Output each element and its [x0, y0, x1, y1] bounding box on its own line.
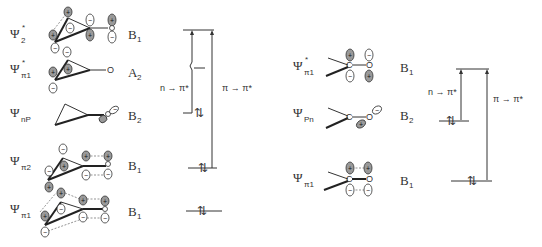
symmetry-b2: B2 — [400, 108, 414, 125]
arrowhead-icon — [210, 30, 214, 35]
orbital-drawing-psi-pi1: + − + − + − + − — [40, 188, 109, 237]
transition-label-n-pi-star: n → π* — [428, 87, 457, 97]
orbital-drawing-psi-pi2: − + − + + − + − — [45, 144, 112, 192]
svg-text:2: 2 — [137, 116, 142, 125]
svg-text:Ψ: Ψ — [10, 61, 20, 76]
svg-text:1: 1 — [409, 68, 414, 77]
symmetry-b1: B1 — [128, 27, 142, 44]
svg-text:−: − — [110, 34, 114, 41]
right-symmetry-labels: B1 B2 B1 — [400, 60, 414, 190]
svg-text:*: * — [305, 55, 308, 64]
svg-text:1: 1 — [137, 166, 142, 175]
svg-text:−: − — [366, 187, 370, 194]
svg-text:−: − — [348, 73, 352, 80]
svg-text:−: − — [43, 229, 47, 236]
svg-text:O: O — [107, 65, 114, 75]
svg-text:C: C — [346, 112, 353, 122]
svg-text:+: + — [348, 52, 352, 59]
label-psi-pi1: Ψ π1 — [10, 201, 32, 220]
svg-text:π1: π1 — [21, 211, 32, 220]
svg-text:−: − — [103, 215, 107, 222]
svg-text:B: B — [128, 27, 137, 42]
svg-text:+: + — [47, 184, 51, 191]
svg-text:*: * — [22, 23, 25, 32]
svg-text:+: + — [359, 121, 363, 128]
svg-text:Ψ: Ψ — [293, 170, 303, 185]
symmetry-a2: A2 — [128, 65, 142, 82]
label-psi-np: Ψ nP — [10, 105, 31, 124]
svg-text:+: + — [62, 163, 66, 170]
svg-text:+: + — [59, 190, 63, 197]
svg-text:B: B — [400, 60, 409, 75]
svg-text:+: + — [43, 213, 47, 220]
svg-text:nP: nP — [21, 115, 31, 124]
svg-text:+: + — [110, 17, 114, 24]
transition-label-n-pi-star: n → π* — [160, 83, 189, 93]
orbital-drawing-right-pi1-star: C O + − − + — [326, 49, 373, 82]
svg-text:2: 2 — [409, 116, 414, 125]
right-orbital-labels: Ψ π1 * Ψ Pn Ψ π1 — [293, 55, 315, 189]
svg-text:Pn: Pn — [304, 115, 314, 124]
svg-text:O: O — [366, 174, 373, 184]
svg-text:−: − — [65, 49, 69, 56]
svg-text:O: O — [366, 112, 373, 122]
electron-pair: ⇅ — [198, 161, 208, 175]
svg-text:Ψ: Ψ — [10, 105, 20, 120]
orbital-drawing-psi-pi1-star: O − + + − — [49, 47, 114, 93]
svg-text:B: B — [128, 158, 137, 173]
svg-text:2: 2 — [137, 73, 142, 82]
arrowhead-icon — [485, 69, 489, 74]
svg-text:Ψ: Ψ — [10, 201, 20, 216]
svg-text:O: O — [366, 60, 373, 70]
svg-text:Ψ: Ψ — [10, 26, 20, 41]
svg-text:C: C — [346, 174, 353, 184]
svg-text:+: + — [366, 165, 370, 172]
orbital-drawing-right-pi1: C O + − + − — [324, 162, 373, 196]
svg-text:+: + — [106, 153, 110, 160]
svg-text:Ψ: Ψ — [293, 105, 303, 120]
orbital-drawing-psi-np: − — [55, 104, 120, 125]
arrowhead-icon — [190, 30, 194, 35]
symmetry-b1: B1 — [128, 158, 142, 175]
svg-text:+: + — [51, 32, 55, 39]
symmetry-b2: B2 — [128, 108, 142, 125]
arrowhead-icon — [459, 69, 463, 74]
svg-text:Ψ: Ψ — [10, 153, 20, 168]
symmetry-b1: B1 — [400, 173, 414, 190]
label-psi-pn: Ψ Pn — [293, 105, 314, 124]
svg-text:+: + — [88, 32, 92, 39]
svg-text:−: − — [81, 214, 85, 221]
left-symmetry-labels: B1 A2 B2 B1 B1 — [128, 27, 142, 221]
transition-arrow-n-pi-star — [190, 32, 192, 113]
svg-text:+: + — [66, 9, 70, 16]
svg-text:−: − — [367, 52, 371, 59]
label-psi-pi1-star: Ψ π1 * — [293, 55, 315, 77]
right-energy-diagram: ⇅ ⇅ n → π* π → π* — [428, 69, 523, 188]
svg-text:+: + — [51, 69, 55, 76]
svg-text:Ψ: Ψ — [293, 58, 303, 73]
svg-text:−: − — [53, 45, 57, 52]
symmetry-b1: B1 — [400, 60, 414, 77]
svg-text:−: − — [47, 168, 51, 175]
orbital-drawing-right-pn: C O + − — [326, 104, 383, 129]
svg-text:1: 1 — [137, 212, 142, 221]
svg-text:+: + — [348, 165, 352, 172]
electron-pair: ⇅ — [197, 204, 207, 218]
label-psi-2-star: Ψ 2 * — [10, 23, 26, 45]
svg-text:C: C — [346, 60, 353, 70]
svg-text:2: 2 — [21, 36, 26, 45]
svg-text:π1: π1 — [304, 68, 315, 77]
svg-text:−: − — [59, 206, 63, 213]
svg-text:π1: π1 — [21, 71, 32, 80]
label-psi-pi2: Ψ π2 — [10, 153, 32, 172]
svg-text:−: − — [88, 17, 92, 24]
svg-text:B: B — [400, 173, 409, 188]
svg-text:−: − — [113, 106, 117, 113]
mo-diagram: Ψ 2 * Ψ π1 * Ψ nP Ψ π2 Ψ π1 B1 A2 B2 B1 … — [0, 0, 542, 247]
svg-text:+: + — [367, 73, 371, 80]
svg-text:*: * — [22, 58, 25, 67]
electron-pair: ⇅ — [446, 114, 456, 128]
left-orbital-labels: Ψ 2 * Ψ π1 * Ψ nP Ψ π2 Ψ π1 — [10, 23, 32, 220]
svg-text:π1: π1 — [304, 180, 315, 189]
svg-text:1: 1 — [409, 181, 414, 190]
